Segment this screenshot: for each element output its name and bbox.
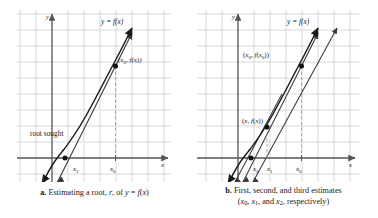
root-label-a: r bbox=[62, 146, 65, 154]
plot-svg-b: y x bbox=[197, 10, 359, 182]
curve-point-x1-b bbox=[265, 125, 270, 130]
x-axis-label-b: x bbox=[348, 161, 352, 168]
point-label-x1-b: (x, f(x)) bbox=[242, 117, 264, 125]
root-sought-label-a: root sought bbox=[30, 129, 64, 138]
caption-a-label: a. bbox=[40, 188, 46, 197]
point-label-x0-b: (x0, f(x0)) bbox=[243, 51, 270, 60]
figure-newtons-method: y x (x0, f(x)) y = f(x) root sought bbox=[0, 0, 378, 218]
caption-a: a. Estimating a root, r, of y = f(x) bbox=[0, 188, 189, 199]
caption-b-line-2: (x0, x1, and x2, respectively) bbox=[189, 197, 378, 208]
plot-area-b: y x bbox=[197, 10, 359, 182]
point-label-a: (x0, f(x)) bbox=[118, 56, 142, 65]
root-point-a bbox=[63, 156, 68, 161]
plot-area-a: y x (x0, f(x)) y = f(x) root sought bbox=[17, 10, 172, 182]
y-axis-label-a: y bbox=[45, 13, 49, 20]
plot-svg-a: y x (x0, f(x)) y = f(x) root sought bbox=[17, 10, 172, 182]
plot-background-b bbox=[197, 10, 359, 182]
x-axis-label-a: x bbox=[160, 161, 164, 168]
caption-b-label: b. bbox=[225, 186, 232, 195]
panel-a: y x (x0, f(x)) y = f(x) root sought bbox=[0, 0, 189, 218]
root-label-b: r bbox=[248, 146, 251, 154]
caption-b: b. First, second, and third estimates (x… bbox=[189, 186, 378, 207]
curve-point-x0-b bbox=[299, 64, 304, 69]
y-axis-label-b: y bbox=[231, 13, 235, 20]
plot-background-a bbox=[17, 10, 172, 182]
curve-label-b: y = f(x) bbox=[286, 17, 310, 26]
caption-a-line-1: a. Estimating a root, r, of y = f(x) bbox=[0, 188, 189, 199]
curve-point-x0-a bbox=[113, 64, 118, 69]
panel-b: y x bbox=[189, 0, 378, 218]
root-point-b bbox=[249, 156, 254, 161]
caption-b-line-1: b. First, second, and third estimates bbox=[189, 186, 378, 197]
curve-label-a: y = f(x) bbox=[100, 17, 124, 26]
